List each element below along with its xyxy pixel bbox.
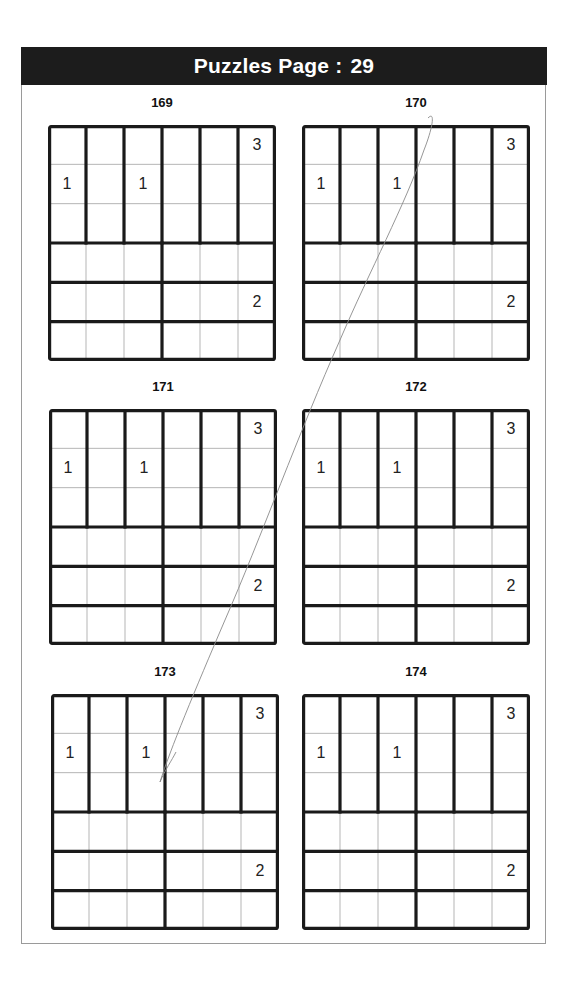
clue-number: 2: [492, 282, 530, 321]
puzzle-grid[interactable]: 3112: [302, 694, 530, 930]
puzzle-number: 170: [302, 95, 530, 110]
puzzle-174: 174 3112: [302, 694, 530, 930]
clue-number: 1: [302, 164, 340, 203]
page-header: Puzzles Page : 29: [21, 47, 547, 85]
clue-number: 1: [48, 164, 86, 203]
clue-number: 3: [241, 694, 279, 733]
clue-number: 1: [125, 448, 163, 487]
puzzle-grid[interactable]: 3112: [302, 409, 530, 645]
clue-number: 3: [238, 125, 276, 164]
puzzle-grid[interactable]: 3112: [51, 694, 279, 930]
clue-number: 1: [302, 448, 340, 487]
clue-number: 1: [127, 733, 165, 772]
clue-number: 1: [51, 733, 89, 772]
puzzle-number: 169: [48, 95, 276, 110]
clue-number: 1: [124, 164, 162, 203]
clue-number: 3: [492, 694, 530, 733]
clue-number: 2: [238, 282, 276, 321]
puzzle-173: 173 3112: [51, 694, 279, 930]
puzzle-grid[interactable]: 3112: [48, 125, 276, 361]
clue-number: 3: [239, 409, 277, 448]
puzzle-number: 174: [302, 664, 530, 679]
clue-number: 1: [378, 164, 416, 203]
puzzle-number: 171: [49, 379, 277, 394]
clue-number: 2: [241, 851, 279, 890]
puzzle-grid[interactable]: 3112: [49, 409, 277, 645]
clue-number: 2: [239, 566, 277, 605]
page-number: 29: [350, 54, 374, 78]
clue-number: 1: [49, 448, 87, 487]
puzzle-number: 172: [302, 379, 530, 394]
clue-number: 1: [378, 733, 416, 772]
puzzle-grid[interactable]: 3112: [302, 125, 530, 361]
clue-number: 3: [492, 125, 530, 164]
puzzle-171: 171 3112: [49, 409, 277, 645]
clue-number: 1: [378, 448, 416, 487]
clue-number: 2: [492, 851, 530, 890]
puzzle-169: 169 3112: [48, 125, 276, 361]
clue-number: 3: [492, 409, 530, 448]
puzzle-number: 173: [51, 664, 279, 679]
clue-number: 2: [492, 566, 530, 605]
puzzle-170: 170 3112: [302, 125, 530, 361]
page-title: Puzzles Page :: [194, 54, 343, 78]
clue-number: 1: [302, 733, 340, 772]
puzzle-172: 172 3112: [302, 409, 530, 645]
